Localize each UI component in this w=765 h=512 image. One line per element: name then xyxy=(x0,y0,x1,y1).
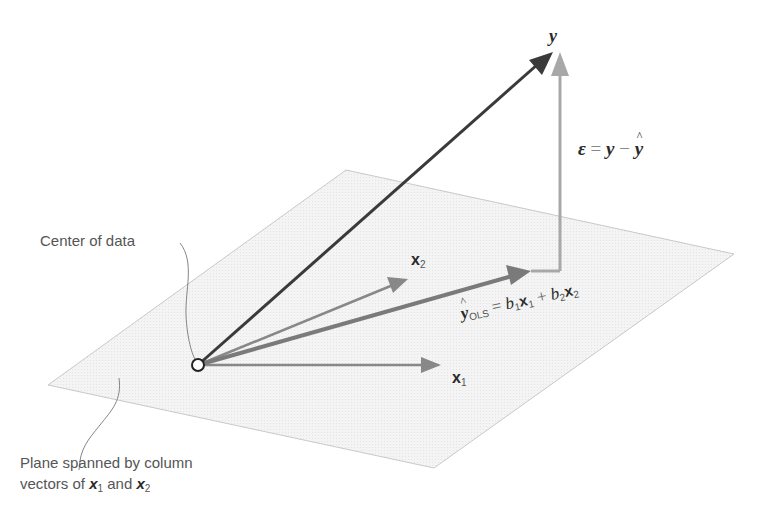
caption-x1: x xyxy=(89,475,97,492)
plus-sign: + xyxy=(535,286,548,307)
plane-caption-line1: Plane spanned by column xyxy=(20,452,193,473)
x2-subscript: 2 xyxy=(420,259,426,270)
minus-sign: − xyxy=(619,138,630,159)
y-label: y xyxy=(549,26,557,47)
x2-label: x2 xyxy=(411,251,425,270)
epsilon-symbol: ε xyxy=(578,138,586,159)
x1-term-subscript: 1 xyxy=(527,298,535,310)
caption-x1-subscript: 1 xyxy=(98,483,104,494)
diagram-canvas xyxy=(0,0,765,512)
x1-subscript: 1 xyxy=(461,377,467,388)
y-label-text: y xyxy=(549,26,557,46)
center-of-data-point xyxy=(192,359,204,371)
residual-arrowhead-icon xyxy=(551,52,569,76)
caption-x2: x xyxy=(136,475,144,492)
x2-base: x xyxy=(411,251,420,268)
x1-base: x xyxy=(452,369,461,386)
caption-x2-subscript: 2 xyxy=(145,483,151,494)
y-arrowhead-icon xyxy=(529,52,553,75)
plane-caption: Plane spanned by column vectors of x1 an… xyxy=(20,452,193,499)
center-of-data-label: Center of data xyxy=(40,232,135,249)
caption-and: and xyxy=(107,475,132,492)
residual-label: ε = y − y xyxy=(578,138,643,160)
column-space-plane xyxy=(48,170,734,468)
center-of-data-text: Center of data xyxy=(40,232,135,249)
equals-sign: = xyxy=(591,138,602,159)
x1-label: x1 xyxy=(452,369,466,388)
plane-caption-prefix: vectors of xyxy=(20,475,85,492)
equals-sign: = xyxy=(490,296,503,317)
ols-geometry-diagram: y ε = y − y x2 x1 yOLS = b1x1 + b2x2 Cen… xyxy=(0,0,765,512)
residual-y: y xyxy=(606,138,614,159)
residual-yhat: y xyxy=(635,138,643,160)
plane-caption-line2: vectors of x1 and x2 xyxy=(20,473,193,499)
